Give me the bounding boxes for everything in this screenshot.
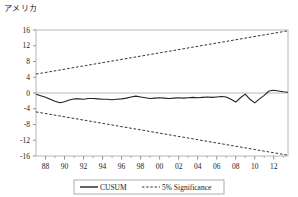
plot-canvas: 1612840-4-8-12-16 8890929496980002040608… (0, 0, 298, 197)
x-tick-label: 04 (194, 162, 202, 171)
x-tick-label: 92 (80, 162, 88, 171)
x-tick-label: 00 (156, 162, 164, 171)
x-tick-label: 90 (61, 162, 69, 171)
x-tick-label: 08 (232, 162, 240, 171)
y-tick-label: -16 (20, 152, 30, 161)
y-tick-label: 8 (26, 57, 30, 66)
x-tick-label: 96 (118, 162, 126, 171)
y-tick-label: 16 (23, 26, 31, 35)
cusum-chart: アメリカ 1612840-4-8-12-16 88909294969800020… (0, 0, 298, 197)
x-tick-label: 94 (99, 162, 107, 171)
x-tick-label: 06 (213, 162, 221, 171)
legend-label-significance: 5% Significance (162, 183, 212, 192)
y-tick-label: -8 (24, 120, 30, 129)
y-tick-label: -4 (24, 104, 30, 113)
x-tick-label: 12 (270, 162, 278, 171)
x-tick-label: 10 (251, 162, 259, 171)
legend-label-cusum: CUSUM (100, 183, 127, 192)
x-axis-ticks: 88909294969800020406081012 (42, 156, 283, 171)
y-tick-label: 12 (23, 41, 31, 50)
y-tick-label: 4 (26, 73, 30, 82)
chart-legend: CUSUM 5% Significance (74, 180, 224, 194)
x-tick-label: 02 (175, 162, 183, 171)
y-tick-label: 0 (26, 89, 30, 98)
series-5-significance (36, 31, 288, 74)
x-tick-label: 98 (137, 162, 145, 171)
series-cusum (36, 90, 288, 103)
series-5-significance-lower (36, 112, 288, 155)
x-tick-label: 88 (42, 162, 50, 171)
y-tick-label: -12 (20, 136, 30, 145)
y-axis-ticks: 1612840-4-8-12-16 (20, 26, 36, 161)
